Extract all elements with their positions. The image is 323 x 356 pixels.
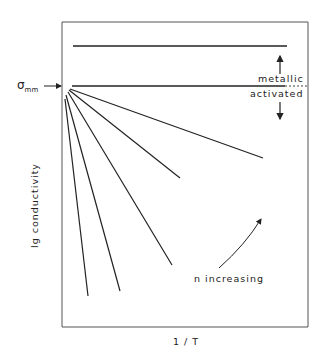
plot-frame — [62, 22, 308, 327]
metallic-label: metallic — [258, 73, 304, 84]
y-axis-label: lg conductivity — [29, 163, 40, 248]
activated-line-2 — [65, 99, 88, 296]
activated-line-4 — [68, 92, 172, 265]
sigma-label: σmm — [17, 78, 38, 94]
n-increasing-arrow — [219, 219, 261, 268]
n-increasing-label: n increasing — [194, 273, 264, 284]
x-axis-label: 1 / T — [173, 336, 199, 347]
activated-line-5 — [70, 89, 263, 158]
conductivity-diagram — [0, 0, 323, 356]
activated-label: activated — [250, 88, 303, 99]
